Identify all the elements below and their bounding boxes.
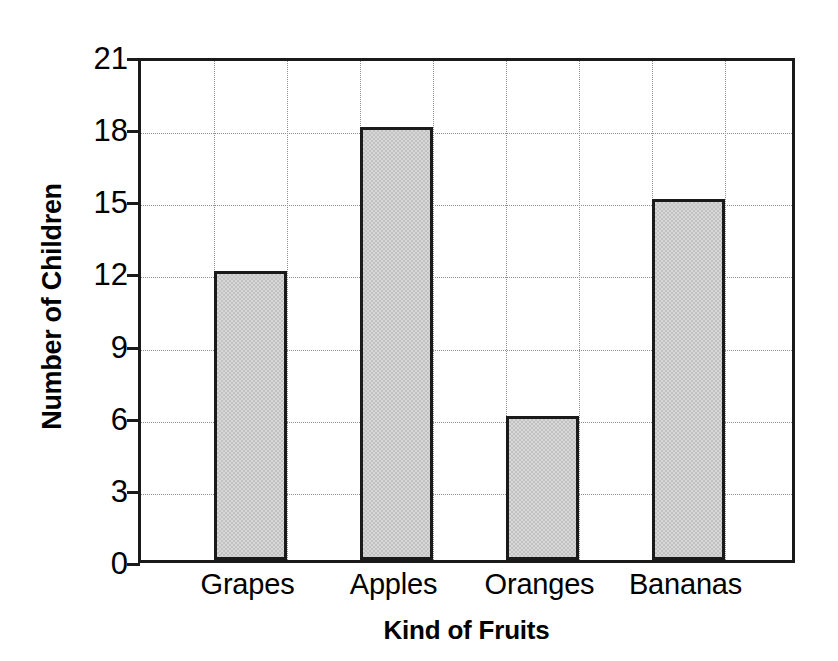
y-tick-mark: [127, 491, 140, 494]
bar-grapes: [214, 271, 287, 560]
y-tick-label: 12: [0, 259, 128, 290]
y-tick-mark: [127, 274, 140, 277]
plot-area: [138, 58, 795, 563]
x-axis-title: Kind of Fruits: [138, 615, 795, 646]
bar-apples: [360, 127, 433, 560]
y-tick-label: 6: [0, 403, 128, 434]
y-tick-label: 21: [0, 43, 128, 74]
y-tick-mark: [127, 563, 140, 566]
y-tick-mark: [127, 419, 140, 422]
y-tick-label: 9: [0, 331, 128, 362]
bar-chart: Number of Children 036912151821 GrapesAp…: [0, 0, 838, 661]
bars-group: [141, 61, 792, 560]
y-tick-label: 18: [0, 115, 128, 146]
bar-bananas: [652, 199, 725, 560]
x-tick-label-grapes: Grapes: [201, 570, 295, 599]
y-tick-label: 3: [0, 475, 128, 506]
x-tick-label-apples: Apples: [350, 570, 437, 599]
x-tick-label-bananas: Bananas: [629, 570, 742, 599]
bar-oranges: [506, 416, 579, 560]
y-tick-mark: [127, 202, 140, 205]
x-tick-label-oranges: Oranges: [485, 570, 595, 599]
y-tick-label: 0: [0, 548, 128, 579]
y-tick-mark: [127, 58, 140, 61]
y-tick-mark: [127, 130, 140, 133]
y-tick-label: 15: [0, 187, 128, 218]
y-tick-mark: [127, 347, 140, 350]
